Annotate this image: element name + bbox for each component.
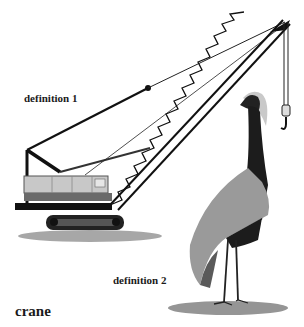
- crawler-tracks: [46, 215, 124, 230]
- crane-cab: [15, 176, 112, 210]
- ground-shadow-machine: [18, 230, 162, 242]
- hook-block: [281, 22, 290, 129]
- crane-bird: [190, 92, 269, 305]
- definition-1-caption: definition 1: [24, 92, 77, 104]
- headword-crane: crane: [15, 303, 51, 320]
- definition-2-caption: definition 2: [113, 274, 166, 286]
